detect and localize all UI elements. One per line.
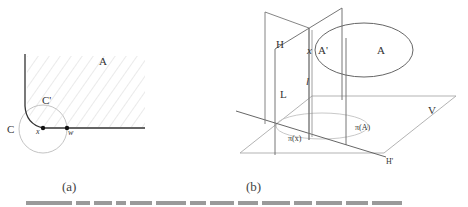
label-line-h-prime: H'	[386, 157, 394, 166]
label-projection-x: π(x)	[288, 134, 302, 143]
label-region-a: A	[99, 55, 107, 67]
label-point-w: w	[68, 128, 74, 137]
label-plane-v: V	[428, 104, 436, 116]
label-region-a: A	[377, 44, 385, 56]
label-circle-c-prime: C'	[42, 94, 51, 106]
line-h-prime	[236, 111, 386, 157]
label-point-x: x	[35, 127, 40, 136]
panel-b-caption: (b)	[246, 179, 261, 194]
label-circle-c: C	[7, 123, 14, 135]
region-a-hatch	[27, 56, 145, 127]
label-plane-l: L	[280, 88, 287, 100]
label-point-x: x	[306, 44, 312, 56]
label-line-l: l	[306, 75, 309, 87]
ellipse-a	[315, 23, 413, 77]
panel-a: A C' C x w (a)	[7, 54, 145, 194]
point-x-marker	[41, 126, 45, 130]
label-projection-a: π(A)	[355, 123, 370, 132]
panel-a-caption: (a)	[62, 179, 76, 194]
plane-v	[240, 96, 456, 153]
label-region-a-prime: A'	[318, 44, 328, 56]
figure: A C' C x w (a)	[0, 0, 468, 207]
plane-h	[265, 12, 309, 140]
label-plane-h: H	[276, 38, 284, 50]
panel-b: H x A' A l L V π(A) π(x) H' (b)	[236, 8, 456, 194]
cropped-caption-strip	[0, 201, 468, 207]
